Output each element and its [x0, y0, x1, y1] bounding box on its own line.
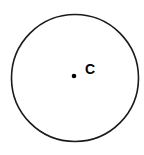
center-point-label: C — [85, 61, 95, 77]
circle-diagram-svg: C — [0, 0, 144, 155]
circle-diagram: C — [0, 0, 144, 155]
diagram-background — [0, 0, 144, 155]
center-point — [72, 74, 77, 79]
